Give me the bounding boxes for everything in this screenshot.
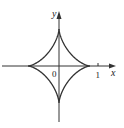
- y-axis-label: y: [51, 8, 57, 19]
- x-axis-label: x: [110, 67, 116, 78]
- origin-label: 0: [52, 69, 57, 79]
- x-tick-label: 1: [96, 70, 101, 80]
- y-axis-arrow-icon: [57, 11, 62, 19]
- astroid-diagram: y x 0 1: [0, 0, 124, 128]
